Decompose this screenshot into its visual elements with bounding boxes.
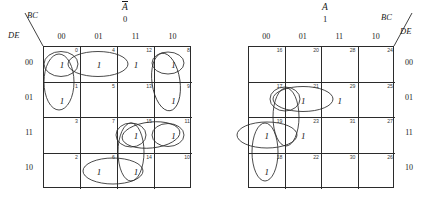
right-col-header-2: 11 xyxy=(321,32,358,41)
cell-right-r2c1[interactable]: 231 xyxy=(286,118,323,154)
cell-value: 1 xyxy=(155,95,192,105)
minterm-label: 30 xyxy=(350,154,356,160)
left-col-header-2: 11 xyxy=(117,32,154,41)
cell-left-r2c0[interactable]: 3 xyxy=(44,118,81,154)
cell-right-r2c0[interactable]: 191 xyxy=(249,118,286,154)
left-row-header-3: 10 xyxy=(18,163,40,172)
cell-right-r1c3[interactable]: 25 xyxy=(359,83,396,119)
minterm-label: 25 xyxy=(387,83,393,89)
cell-left-r0c1[interactable]: 41 xyxy=(81,47,118,83)
cell-right-r2c2[interactable]: 31 xyxy=(322,118,359,154)
cell-value: 1 xyxy=(118,60,154,70)
cell-left-r0c3[interactable]: 81 xyxy=(155,47,192,83)
cell-value: 1 xyxy=(118,167,154,177)
cell-left-r2c1[interactable]: 7 xyxy=(81,118,118,154)
left-row-header-2: 11 xyxy=(18,128,40,137)
minterm-label: 2 xyxy=(75,154,78,160)
cell-value: 1 xyxy=(286,131,322,141)
cell-right-r3c1[interactable]: 22 xyxy=(286,154,323,190)
left-row-header-0: 00 xyxy=(18,58,40,67)
cell-value: 1 xyxy=(249,131,285,141)
left-map-variable-letter: A xyxy=(122,2,128,12)
cell-left-r2c3[interactable]: 111 xyxy=(155,118,192,154)
right-corner-label-de: DE xyxy=(400,26,411,36)
minterm-label: 21 xyxy=(313,83,319,89)
minterm-label: 6 xyxy=(112,154,115,160)
minterm-label: 18 xyxy=(277,154,283,160)
minterm-label: 31 xyxy=(350,118,356,124)
minterm-label: 1 xyxy=(75,83,78,89)
cell-right-r3c2[interactable]: 30 xyxy=(322,154,359,190)
cell-value: 1 xyxy=(155,60,192,70)
cell-value: 1 xyxy=(44,95,80,105)
cell-right-r0c2[interactable]: 28 xyxy=(322,47,359,83)
cell-left-r2c2[interactable]: 151 xyxy=(118,118,155,154)
right-col-header-3: 10 xyxy=(358,32,395,41)
minterm-label: 17 xyxy=(277,83,283,89)
cell-left-r1c0[interactable]: 11 xyxy=(44,83,81,119)
minterm-label: 4 xyxy=(112,47,115,53)
cell-left-r1c1[interactable]: 5 xyxy=(81,83,118,119)
minterm-label: 9 xyxy=(187,83,190,89)
left-col-header-3: 10 xyxy=(154,32,191,41)
cell-left-r3c3[interactable]: 10 xyxy=(155,154,192,190)
right-map-variable-label: A xyxy=(295,2,355,12)
cell-value: 1 xyxy=(249,167,285,177)
minterm-label: 27 xyxy=(387,118,393,124)
left-corner-label-bc: BC xyxy=(27,10,38,20)
minterm-label: 16 xyxy=(277,47,283,53)
minterm-label: 23 xyxy=(313,118,319,124)
minterm-label: 29 xyxy=(350,83,356,89)
minterm-label: 10 xyxy=(184,154,190,160)
cell-value: 1 xyxy=(118,131,154,141)
cell-left-r0c0[interactable]: 01 xyxy=(44,47,81,83)
left-col-header-1: 01 xyxy=(80,32,117,41)
minterm-label: 26 xyxy=(387,154,393,160)
minterm-label: 28 xyxy=(350,47,356,53)
cell-value: 1 xyxy=(81,167,117,177)
right-col-header-1: 01 xyxy=(285,32,322,41)
cell-right-r0c1[interactable]: 20 xyxy=(286,47,323,83)
cell-left-r3c0[interactable]: 2 xyxy=(44,154,81,190)
karnaugh-map-figure: A 0 BC DE 00 01 11 10 00 01 11 10 01 41 … xyxy=(0,0,432,204)
cell-right-r0c3[interactable]: 24 xyxy=(359,47,396,83)
right-row-header-1: 01 xyxy=(398,93,420,102)
minterm-label: 13 xyxy=(146,83,152,89)
minterm-label: 7 xyxy=(112,118,115,124)
minterm-label: 15 xyxy=(146,118,152,124)
cell-right-r3c0[interactable]: 181 xyxy=(249,154,286,190)
left-corner-label-de: DE xyxy=(8,30,19,40)
minterm-label: 24 xyxy=(387,47,393,53)
cell-left-r3c1[interactable]: 61 xyxy=(81,154,118,190)
cell-left-r3c2[interactable]: 141 xyxy=(118,154,155,190)
cell-value: 1 xyxy=(44,60,80,70)
cell-value: 1 xyxy=(155,131,192,141)
cell-right-r1c2[interactable]: 291 xyxy=(322,83,359,119)
cell-value: 1 xyxy=(322,95,358,105)
cell-left-r1c3[interactable]: 91 xyxy=(155,83,192,119)
minterm-label: 11 xyxy=(185,118,190,124)
cell-right-r2c3[interactable]: 27 xyxy=(359,118,396,154)
cell-right-r1c0[interactable]: 17 xyxy=(249,83,286,119)
minterm-label: 8 xyxy=(187,47,190,53)
left-row-header-1: 01 xyxy=(18,93,40,102)
cell-left-r0c2[interactable]: 121 xyxy=(118,47,155,83)
minterm-label: 5 xyxy=(112,83,115,89)
cell-value: 1 xyxy=(81,60,117,70)
cell-right-r3c3[interactable]: 26 xyxy=(359,154,396,190)
minterm-label: 12 xyxy=(146,47,152,53)
minterm-label: 20 xyxy=(313,47,319,53)
cell-right-r0c0[interactable]: 16 xyxy=(249,47,286,83)
minterm-label: 19 xyxy=(277,118,283,124)
minterm-label: 14 xyxy=(146,154,152,160)
right-row-header-0: 00 xyxy=(398,58,420,67)
right-kmap-grid: 16 20 28 24 17 211 291 25 191 231 31 27 … xyxy=(248,46,394,188)
cell-left-r1c2[interactable]: 13 xyxy=(118,83,155,119)
minterm-label: 22 xyxy=(313,154,319,160)
cell-right-r1c1[interactable]: 211 xyxy=(286,83,323,119)
minterm-label: 3 xyxy=(75,118,78,124)
right-map-variable-value: 1 xyxy=(295,14,355,24)
left-map-variable-label: A xyxy=(95,2,155,12)
left-map-variable-value: 0 xyxy=(95,14,155,24)
minterm-label: 0 xyxy=(75,47,78,53)
